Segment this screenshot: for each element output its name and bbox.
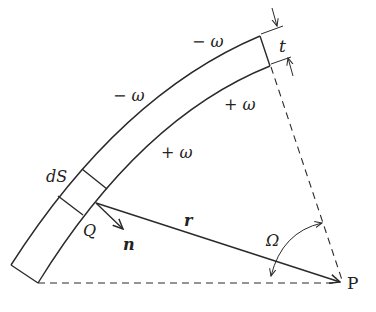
thickness-arrow-bottom: [288, 58, 293, 76]
label-thickness-t: t: [279, 36, 286, 56]
label-plus-omega-top: + ω: [224, 95, 256, 114]
label-r: r: [184, 211, 194, 230]
top-end-cap: [260, 36, 270, 66]
thickness-arrow-top: [272, 8, 277, 26]
label-Omega: Ω: [265, 231, 279, 250]
label-n: n: [123, 235, 135, 254]
bottom-end-cap: [11, 265, 38, 283]
element-boundary-upper: [82, 169, 107, 189]
thickness-extension-top: [261, 26, 283, 34]
label-minus-omega-mid: − ω: [113, 86, 145, 105]
label-minus-omega-top: − ω: [192, 32, 224, 51]
element-boundary-lower: [58, 196, 83, 215]
double-layer-diagram: − ω − ω + ω + ω t dS Q n r Ω P: [0, 0, 376, 312]
label-P: P: [347, 273, 358, 293]
label-plus-omega-mid: + ω: [161, 143, 193, 162]
outer-surface-arc: [11, 36, 260, 265]
label-Q: Q: [83, 221, 96, 240]
dashed-edge-ray: [271, 67, 342, 280]
label-dS: dS: [46, 167, 67, 186]
